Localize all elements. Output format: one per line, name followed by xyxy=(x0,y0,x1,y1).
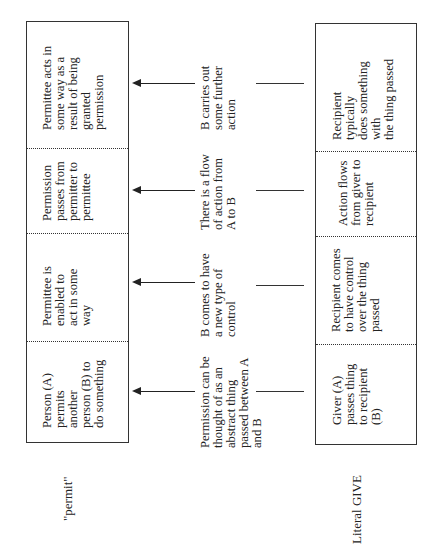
give-cell-2-text: Recipient comes to have control over the… xyxy=(330,248,382,332)
permit-cell-3-text: Permission passes from permitter to perm… xyxy=(41,161,93,221)
permit-label: "permit" xyxy=(60,476,76,521)
permit-cell-1-text: Person (A) permits another person (B) to… xyxy=(41,360,106,428)
arrowhead-icon xyxy=(132,387,141,395)
connector-3 xyxy=(256,190,304,191)
arrow-1 xyxy=(135,391,195,392)
give-cell-2: Recipient comes to have control over the… xyxy=(316,236,416,344)
give-cell-3-text: Action flows from giver to recipient xyxy=(337,160,376,226)
connector-1 xyxy=(256,391,304,392)
connector-4 xyxy=(256,83,304,84)
mapping-text-2: B comes to have a new type of control xyxy=(199,253,238,337)
permit-cell-4: Permittee acts in some way as a result o… xyxy=(27,22,128,148)
give-cell-4-text: Recipient typically does something with … xyxy=(331,55,396,140)
literal-give-label: Literal GIVE xyxy=(349,475,365,544)
arrow-2 xyxy=(135,282,195,283)
give-cell-4: Recipient typically does something with … xyxy=(316,24,416,151)
give-cell-3: Action flows from giver to recipient xyxy=(316,151,416,236)
permit-cell-1: Person (A) permits another person (B) to… xyxy=(27,341,128,442)
mapping-text-4: B carries out some further action xyxy=(199,66,238,130)
give-cell-1: Giver (A) passes thing to recipient (B) xyxy=(316,344,416,444)
arrow-3 xyxy=(135,190,195,191)
permit-cell-2-text: Permittee is enabled to act in some way xyxy=(41,266,93,326)
arrow-4 xyxy=(135,83,195,84)
mapping-text-1: Permission can be thought of as an abstr… xyxy=(199,356,264,448)
arrowhead-icon xyxy=(132,186,141,194)
permit-box: Permittee acts in some way as a result o… xyxy=(26,21,129,443)
permit-cell-3: Permission passes from permitter to perm… xyxy=(27,148,128,233)
mapping-text-3: There is a flow of action from A to B xyxy=(199,154,238,230)
arrowhead-icon xyxy=(132,278,141,286)
permit-cell-4-text: Permittee acts in some way as a result o… xyxy=(41,46,106,130)
arrowhead-icon xyxy=(132,79,141,87)
permit-cell-2: Permittee is enabled to act in some way xyxy=(27,233,128,341)
connector-2 xyxy=(256,285,304,286)
literal-give-box: Recipient typically does something with … xyxy=(315,23,417,445)
give-cell-1-text: Giver (A) passes thing to recipient (B) xyxy=(331,364,383,425)
